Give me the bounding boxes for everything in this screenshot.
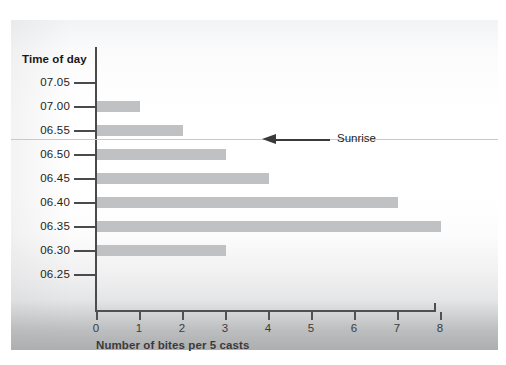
x-tick-label: 6 xyxy=(342,322,366,334)
sunrise-arrow-shaft xyxy=(275,139,330,141)
y-tick-group: 06.40 xyxy=(0,196,70,210)
y-tick-mark xyxy=(74,202,96,204)
y-tick-label: 06.30 xyxy=(0,244,70,256)
x-tick-label: 4 xyxy=(256,322,280,334)
y-tick-mark xyxy=(74,226,96,228)
plot-area: Time of day 07.05 07.00 06.55 06.50 06.4… xyxy=(0,0,506,365)
x-tick-label: 7 xyxy=(385,322,409,334)
y-tick-group: 07.00 xyxy=(0,100,70,114)
x-tick-label: 2 xyxy=(170,322,194,334)
x-tick-mark xyxy=(397,312,399,320)
y-tick-group: 06.45 xyxy=(0,172,70,186)
x-axis-title: Number of bites per 5 casts xyxy=(96,339,250,351)
y-tick-group: 06.50 xyxy=(0,148,70,162)
y-tick-mark xyxy=(74,178,96,180)
y-tick-group: 06.30 xyxy=(0,244,70,258)
x-tick-mark xyxy=(96,312,98,320)
x-tick-label: 5 xyxy=(299,322,323,334)
sunrise-reference-line xyxy=(11,139,498,140)
y-axis-title: Time of day xyxy=(22,53,87,65)
y-tick-label: 06.25 xyxy=(0,268,70,280)
y-tick-group: 07.05 xyxy=(0,76,70,90)
y-tick-group: 06.55 xyxy=(0,124,70,138)
x-tick-label: 3 xyxy=(213,322,237,334)
x-tick-mark xyxy=(440,312,442,320)
sunrise-annotation-label: Sunrise xyxy=(337,132,376,144)
sunrise-arrow-icon xyxy=(262,134,276,144)
x-axis-end-tick xyxy=(434,303,436,312)
y-tick-label: 07.00 xyxy=(0,100,70,112)
y-tick-mark xyxy=(74,154,96,156)
y-tick-mark xyxy=(74,130,96,132)
bar-0640 xyxy=(97,197,398,208)
x-tick-label: 0 xyxy=(84,322,108,334)
bar-0630 xyxy=(97,245,226,256)
y-tick-mark xyxy=(74,274,96,276)
y-tick-group: 06.25 xyxy=(0,268,70,282)
x-tick-label: 8 xyxy=(428,322,452,334)
y-tick-label: 07.05 xyxy=(0,76,70,88)
x-tick-mark xyxy=(225,312,227,320)
y-tick-label: 06.55 xyxy=(0,124,70,136)
y-tick-label: 06.50 xyxy=(0,148,70,160)
y-tick-label: 06.35 xyxy=(0,220,70,232)
y-tick-mark xyxy=(74,106,96,108)
bar-0635 xyxy=(97,221,441,232)
x-tick-mark xyxy=(182,312,184,320)
y-tick-label: 06.40 xyxy=(0,196,70,208)
bar-0650 xyxy=(97,149,226,160)
y-tick-group: 06.35 xyxy=(0,220,70,234)
x-axis-line xyxy=(95,310,436,312)
x-tick-mark xyxy=(311,312,313,320)
bar-0645 xyxy=(97,173,269,184)
y-tick-mark xyxy=(74,82,96,84)
y-tick-mark xyxy=(74,250,96,252)
x-tick-label: 1 xyxy=(127,322,151,334)
x-tick-mark xyxy=(268,312,270,320)
bar-0655 xyxy=(97,125,183,136)
y-tick-label: 06.45 xyxy=(0,172,70,184)
figure: Time of day 07.05 07.00 06.55 06.50 06.4… xyxy=(0,0,506,365)
bar-0700 xyxy=(97,101,140,112)
x-tick-mark xyxy=(354,312,356,320)
x-tick-mark xyxy=(139,312,141,320)
